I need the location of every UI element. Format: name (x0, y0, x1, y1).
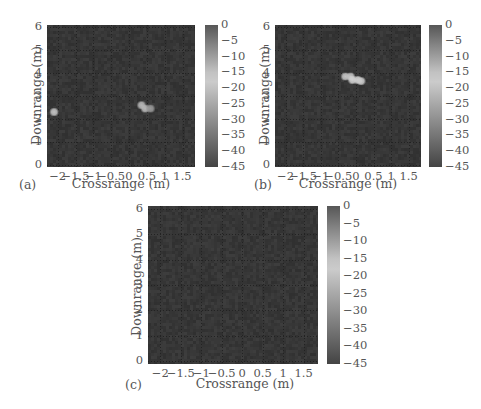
y-tick-label: 6 (28, 20, 42, 32)
panel-label-a: (a) (19, 177, 36, 192)
colorbar-tick-label: −5 (445, 34, 462, 46)
heatmap-image (148, 206, 318, 364)
colorbar-tick-label: −10 (343, 234, 367, 246)
colorbar-tick-label: −30 (343, 304, 367, 316)
heatmap-plot-c (148, 206, 318, 364)
heatmap-plot-b (275, 25, 421, 167)
colorbar-tick-label: −20 (343, 269, 367, 281)
colorbar-a (205, 25, 218, 167)
panel-label-b: (b) (254, 177, 272, 192)
colorbar-tick-label: −35 (445, 128, 469, 140)
colorbar-tick-label: −40 (445, 144, 469, 156)
colorbar-tick-label: 0 (445, 18, 452, 30)
colorbar-tick-label: −45 (343, 357, 367, 369)
y-tick-label: 0 (129, 354, 143, 366)
colorbar-tick-label: −35 (343, 322, 367, 334)
y-tick-label: 0 (28, 158, 42, 170)
colorbar-tick-label: −5 (221, 34, 238, 46)
colorbar-tick-label: −10 (445, 50, 469, 62)
y-tick-label: 6 (256, 20, 270, 32)
colorbar-tick-label: 0 (221, 18, 228, 30)
y-tick-label: 6 (129, 202, 143, 214)
colorbar-c (327, 206, 340, 364)
colorbar-tick-label: −45 (445, 160, 469, 172)
y-tick-label: 0 (256, 158, 270, 170)
x-axis-label-a: Crossrange (m) (72, 176, 170, 191)
colorbar-tick-label: −5 (343, 217, 360, 229)
colorbar-tick-label: −40 (221, 144, 245, 156)
y-axis-label-b: Downrange (m) (257, 46, 272, 145)
x-tick-label: 1.5 (295, 367, 313, 379)
colorbar-tick-label: 0 (343, 199, 350, 211)
x-tick-label: −1.5 (167, 367, 195, 379)
colorbar-tick-label: −35 (221, 128, 245, 140)
x-tick-label: 1.5 (400, 170, 418, 182)
colorbar-tick-label: −30 (445, 113, 469, 125)
colorbar-tick-label: −25 (445, 97, 469, 109)
colorbar-tick-label: −25 (221, 97, 245, 109)
colorbar-tick-label: −15 (221, 65, 245, 77)
colorbar-tick-label: −45 (221, 160, 245, 172)
x-tick-label: 1.5 (173, 170, 191, 182)
colorbar-tick-label: −10 (221, 50, 245, 62)
colorbar-tick-label: −30 (221, 113, 245, 125)
heatmap-image (275, 25, 421, 167)
y-axis-label-a: Downrange (m) (29, 46, 44, 145)
colorbar-tick-label: −20 (221, 81, 245, 93)
colorbar-tick-label: −15 (445, 65, 469, 77)
colorbar-tick-label: −25 (343, 287, 367, 299)
panel-label-c: (c) (125, 377, 142, 392)
x-axis-label-b: Crossrange (m) (299, 176, 397, 191)
colorbar-tick-label: −15 (343, 252, 367, 264)
colorbar-tick-label: −40 (343, 339, 367, 351)
colorbar-tick-label: −20 (445, 81, 469, 93)
colorbar-b (429, 25, 442, 167)
heatmap-image (47, 25, 195, 167)
y-axis-label-c: Downrange (m) (129, 237, 144, 336)
heatmap-plot-a (47, 25, 195, 167)
x-axis-label-c: Crossrange (m) (196, 376, 294, 391)
